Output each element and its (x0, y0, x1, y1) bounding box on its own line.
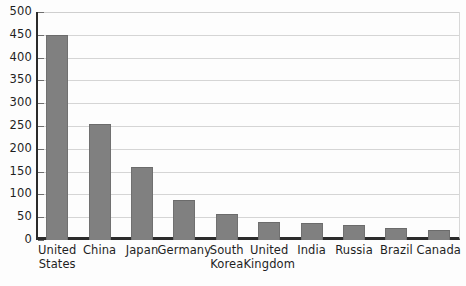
bar (301, 223, 323, 240)
y-axis-tick-label: 100 (0, 188, 32, 200)
y-axis-tick-label: 500 (0, 6, 32, 18)
y-axis-tick-label: 0 (0, 234, 32, 246)
y-axis-tick-label: 50 (0, 211, 32, 223)
bar (216, 214, 238, 240)
bar-series (36, 12, 460, 240)
y-axis-tick-label: 200 (0, 143, 32, 155)
y-axis-tick-label: 250 (0, 120, 32, 132)
y-axis-tick-label: 350 (0, 74, 32, 86)
bar (173, 200, 195, 240)
y-axis-tick-label: 400 (0, 52, 32, 64)
y-axis-labels: 500450400350300250200150100500 (0, 0, 32, 286)
y-axis-tick-label: 450 (0, 29, 32, 41)
bar (385, 228, 407, 240)
x-axis-labels: United StatesChinaJapanGermanySouth Kore… (36, 244, 460, 286)
y-axis-tick-label: 300 (0, 97, 32, 109)
bar (428, 230, 450, 240)
bar (46, 35, 68, 240)
bar (258, 222, 280, 240)
bar (343, 225, 365, 241)
x-axis-tick-label: Canada (412, 244, 466, 258)
bar-chart: 500450400350300250200150100500 United St… (0, 0, 466, 286)
bar (89, 124, 111, 240)
y-axis-tick (38, 240, 44, 241)
bar (131, 167, 153, 240)
y-axis-tick-label: 150 (0, 166, 32, 178)
